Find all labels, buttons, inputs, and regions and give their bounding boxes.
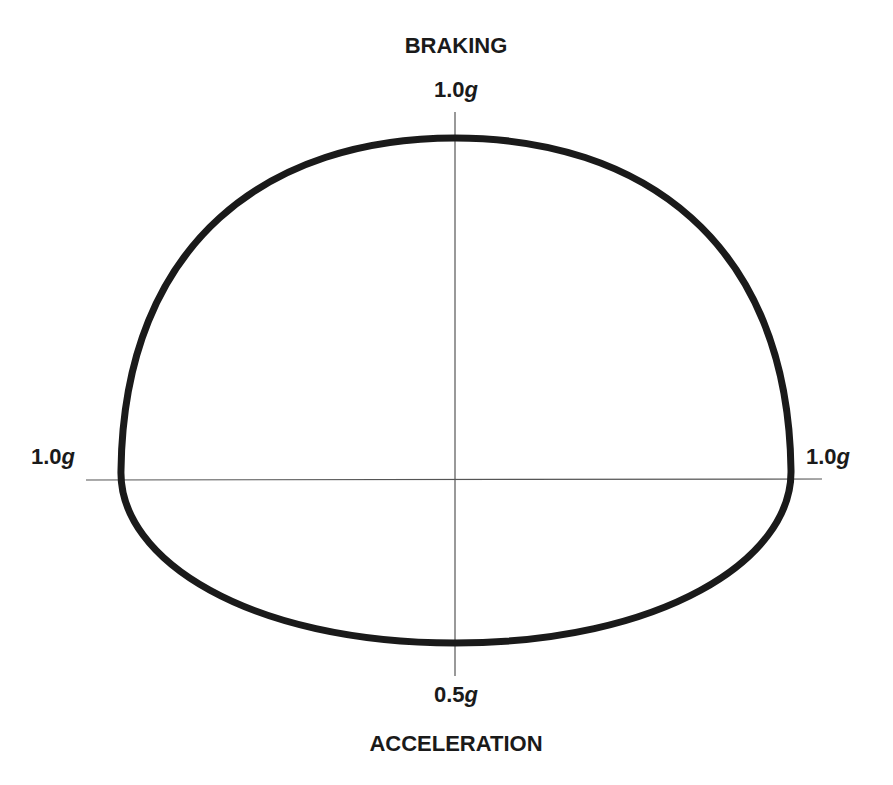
friction-circle-diagram — [0, 0, 893, 785]
tick-value: 1.0 — [31, 444, 62, 469]
tick-unit: g — [837, 444, 850, 469]
left-lateral-tick: 1.0g — [31, 444, 75, 470]
tick-unit: g — [62, 444, 75, 469]
acceleration-label: ACCELERATION — [0, 731, 893, 757]
tick-value: 1.0 — [806, 444, 837, 469]
horizontal-axis — [86, 479, 822, 480]
traction-envelope-curve — [121, 138, 791, 643]
tick-unit: g — [465, 682, 478, 707]
braking-label: BRAKING — [0, 33, 893, 59]
acceleration-limit-tick: 0.5g — [0, 682, 893, 708]
tick-value: 1.0 — [434, 77, 465, 102]
tick-value: 0.5 — [434, 682, 465, 707]
tick-unit: g — [465, 77, 478, 102]
right-lateral-tick: 1.0g — [806, 444, 850, 470]
braking-limit-tick: 1.0g — [0, 77, 893, 103]
